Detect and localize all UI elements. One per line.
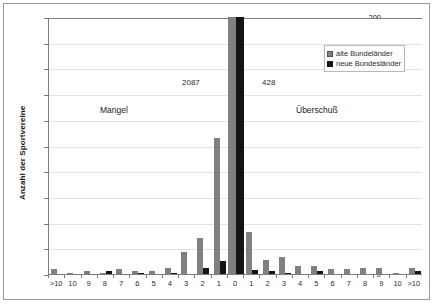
bar-neue-bundesländer xyxy=(317,271,323,274)
bar-neue-bundesländer xyxy=(236,17,244,274)
bar-alte-bundeländer xyxy=(360,268,366,274)
bar-alte-bundeländer xyxy=(393,273,399,274)
legend-item-label: neue Bundesländer xyxy=(336,60,401,68)
x-axis-tick xyxy=(292,275,293,278)
legend-item: alte Bundeländer xyxy=(327,49,401,58)
legend-swatch-alte-icon xyxy=(327,51,333,57)
x-axis-tick xyxy=(308,275,309,278)
x-axis-tick xyxy=(178,275,179,278)
bar-alte-bundeländer xyxy=(328,269,334,274)
bar-group xyxy=(49,18,65,274)
x-axis-tick xyxy=(373,275,374,278)
mangel-label: Mangel xyxy=(100,105,128,115)
legend-item: neue Bundesländer xyxy=(327,59,401,68)
x-axis-tick xyxy=(227,275,228,278)
bar-alte-bundeländer xyxy=(84,271,90,274)
legend-item-label: alte Bundeländer xyxy=(336,50,393,58)
x-axis-tick xyxy=(146,275,147,278)
x-axis-tick xyxy=(81,275,82,278)
bar-group xyxy=(114,18,130,274)
bar-alte-bundeländer xyxy=(228,17,236,274)
bar-group xyxy=(65,18,81,274)
bar-alte-bundeländer xyxy=(149,271,155,274)
bar-neue-bundesländer xyxy=(415,271,421,274)
bar-neue-bundesländer xyxy=(269,271,275,274)
bar-group xyxy=(260,18,276,274)
bar-group xyxy=(277,18,293,274)
bar-alte-bundeländer xyxy=(51,269,57,274)
y-axis-title: Anzahl der Sportvereine xyxy=(18,106,27,200)
bar-neue-bundesländer xyxy=(220,261,226,274)
chart-screenshot: Anzahl der Sportvereine 0204060801001201… xyxy=(0,0,435,305)
bar-group xyxy=(98,18,114,274)
bar-group xyxy=(163,18,179,274)
x-axis-tick xyxy=(341,275,342,278)
bar-alte-bundeländer xyxy=(279,257,285,274)
x-axis-tick xyxy=(48,275,49,278)
bar-alte-bundeländer xyxy=(67,273,73,274)
x-axis-tick xyxy=(324,275,325,278)
bar-neue-bundesländer xyxy=(285,273,291,274)
bar-group xyxy=(195,18,211,274)
chart-legend: alte Bundeländerneue Bundesländer xyxy=(324,45,405,72)
bar-alte-bundeländer xyxy=(344,269,350,274)
x-axis-tick xyxy=(259,275,260,278)
bar-group xyxy=(309,18,325,274)
bar-group xyxy=(82,18,98,274)
x-axis-tick xyxy=(64,275,65,278)
bar-alte-bundeländer xyxy=(246,232,252,274)
x-axis-tick xyxy=(389,275,390,278)
bar-group xyxy=(293,18,309,274)
x-axis-tick xyxy=(194,275,195,278)
bar-group xyxy=(228,18,244,274)
x-axis-tick xyxy=(276,275,277,278)
x-axis-tick xyxy=(113,275,114,278)
bar-alte-bundeländer xyxy=(214,138,220,274)
bar-alte-bundeländer xyxy=(376,268,382,274)
bar-neue-bundesländer xyxy=(171,273,177,274)
ueberschuss-label: Überschuß xyxy=(296,105,338,115)
bar-group xyxy=(407,18,423,274)
x-axis-tick xyxy=(357,275,358,278)
bar-alte-bundeländer xyxy=(295,266,301,274)
bar-neue-bundesländer xyxy=(138,273,144,274)
bar-neue-bundesländer xyxy=(203,268,209,274)
x-axis-tick xyxy=(97,275,98,278)
bar-group xyxy=(130,18,146,274)
bar-group xyxy=(244,18,260,274)
x-axis-tick xyxy=(211,275,212,278)
bar-alte-bundeländer xyxy=(181,252,187,274)
x-axis-tick-label: >10 xyxy=(400,280,428,288)
value-label-428: 428 xyxy=(262,78,275,87)
x-axis-tick xyxy=(129,275,130,278)
bar-group xyxy=(212,18,228,274)
legend-swatch-neue-icon xyxy=(327,61,333,67)
bar-group xyxy=(179,18,195,274)
bar-neue-bundesländer xyxy=(252,270,258,274)
chart-frame: Anzahl der Sportvereine 0204060801001201… xyxy=(3,3,430,300)
x-axis-tick xyxy=(162,275,163,278)
x-axis-tick xyxy=(243,275,244,278)
x-axis-tick xyxy=(406,275,407,278)
bar-neue-bundesländer xyxy=(106,271,112,274)
bar-group xyxy=(147,18,163,274)
value-label-2087: 2087 xyxy=(182,78,200,87)
bar-alte-bundeländer xyxy=(116,269,122,274)
